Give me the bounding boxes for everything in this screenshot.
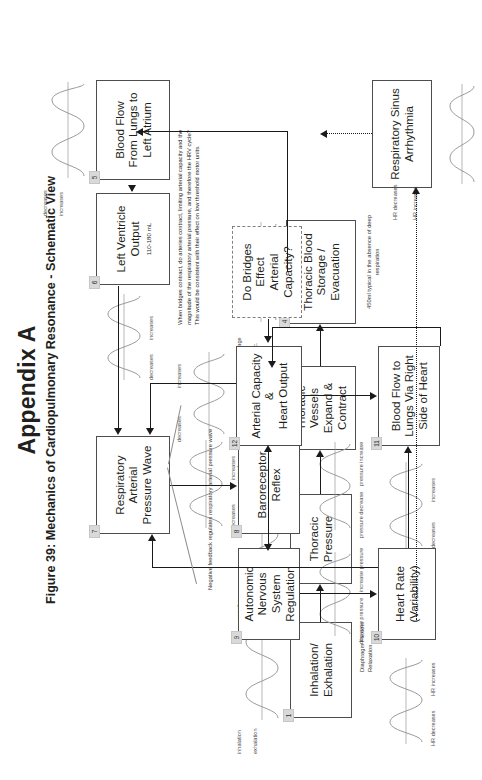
waveform-12-low-label: increases [176, 364, 182, 388]
edge-3-to-4 [320, 331, 321, 366]
edge-4-to-5-arrowhead [136, 128, 143, 136]
waveform-8-low-label: pressure increase [358, 442, 364, 486]
edge-1-to-rsa-dotted [416, 190, 417, 620]
annotation-diaphragm: Diaphragm Flexion/ Relaxation [358, 622, 375, 672]
node-6-left-ventricle-output[interactable]: Left Ventricle Output 110-180 mL [96, 193, 170, 285]
diagram-page: Appendix A Figure 39: Mechanics of Cardi… [0, 0, 482, 780]
node-10-heart-rate-variability[interactable]: Heart Rate (Variability) [378, 548, 436, 640]
waveform-11 [382, 462, 428, 548]
waveform-9 [312, 552, 356, 636]
edge-4-to-5-vertical [140, 131, 288, 132]
waveform-5-high-label: decreases [42, 190, 48, 216]
edge-2-to-3 [320, 457, 321, 494]
edge-9-to-10-arrowhead [370, 590, 377, 598]
node-4-sub-note: 450ml typical in the absence of deep res… [365, 214, 382, 310]
edge-6-to-7 [118, 286, 119, 428]
node-number-badge-9: 9 [231, 631, 242, 644]
edge-1-to-2-arrowhead [316, 584, 324, 591]
waveform-1-low-label: exhalation [252, 728, 258, 754]
node-7-respiratory-arterial-pressure-wave[interactable]: Respiratory Arterial Pressure Wave [96, 436, 170, 534]
edge-2-to-3-arrowhead [316, 450, 324, 457]
waveform-6 [100, 294, 146, 380]
edge-12-to-11 [302, 395, 370, 396]
node-label: Thoracic Blood Storage / Evacuation [301, 233, 342, 310]
edge-12-to-11-arrowhead [370, 392, 377, 400]
edge-11-to-3-arrowhead [268, 361, 276, 368]
node-number-badge-1: 1 [283, 709, 294, 722]
node-label: Left Ventricle Output [114, 205, 141, 272]
waveform-rsa [444, 84, 480, 184]
waveform-11-low-label: increases [430, 478, 436, 502]
edge-12-to-7-vertical [150, 383, 236, 384]
node-label: Autonomic Nervous System Regulation [242, 552, 296, 636]
question-box-label: Do Bridges Effect Arterial Capacity? [240, 243, 294, 300]
edge-1-to-rsa-arrowhead [412, 187, 420, 194]
page-title: Appendix A [14, 0, 41, 780]
edge-10-to-11-arrowhead [404, 446, 412, 453]
rsa-label: Respiratory Sinus Arrhythmia [388, 88, 415, 180]
waveform-5-low-label: increases [58, 192, 64, 216]
node-9-autonomic-nervous-system-regulation[interactable]: Autonomic Nervous System Regulation [238, 548, 300, 640]
edge-10-to-11 [408, 453, 409, 548]
node-respiratory-sinus-arrhythmia-box[interactable]: Respiratory Sinus Arrhythmia [372, 80, 432, 188]
node-number-badge-11: 11 [371, 437, 382, 450]
waveform-5 [44, 82, 90, 178]
node-number-badge-7: 7 [89, 525, 100, 538]
question-box-bridges-arterial-capacity[interactable]: Do Bridges Effect Arterial Capacity? [232, 226, 302, 318]
edge-9-to-12-arrowhead [264, 445, 272, 452]
waveform-8-high-label: pressure decrease [358, 492, 364, 538]
waveform-11-high-label: decreases [430, 522, 436, 548]
waveform-10-low-label: HR increases [430, 662, 436, 696]
waveform-rsa-high-label: HR decreases [392, 185, 398, 220]
waveform-9-low-label: increase pressure [358, 548, 364, 592]
edge-rsa-to-10-dotted [326, 133, 372, 134]
node-6-volume-value: 110-180 mL [145, 223, 152, 256]
node-label: Respiratory Arterial Pressure Wave [113, 446, 154, 525]
waveform-7-low-label: increases [230, 456, 236, 480]
waveform-6-high-label: decreases [148, 354, 154, 380]
edge-9-to-10 [300, 593, 370, 594]
waveform-1-high-label: inhalation [236, 730, 242, 754]
edge-11-to-3-horizontal-top [272, 327, 273, 362]
edge-12-to-7-arrowhead [146, 428, 154, 435]
edge-5-to-6-arrowhead [128, 185, 136, 192]
node-number-badge-8: 8 [231, 525, 242, 538]
node-label: Inhalation/ Exhalation [307, 643, 334, 697]
edge-9-to-12 [268, 452, 269, 548]
edge-10-to-7-vertical [152, 567, 378, 568]
node-label: Thoracic Vessels Expand & Contract [294, 383, 348, 433]
edge-11-to-3-vertical [272, 327, 440, 328]
edge-4-to-5-horizontal [287, 131, 288, 272]
annotation-bridges-note: When bridges contract, do arteries contr… [176, 125, 202, 325]
rotated-page-wrapper: Appendix A Figure 39: Mechanics of Cardi… [0, 0, 482, 780]
node-number-badge-5: 5 [89, 171, 100, 184]
edge-question-to-12-arrowhead [264, 336, 272, 343]
waveform-10-high-label: HR decreases [430, 711, 436, 746]
edge-1-to-2 [320, 591, 321, 622]
waveform-6-low-label: increases [148, 316, 154, 340]
edge-rsa-to-10-arrowhead [320, 130, 327, 138]
node-number-badge-6: 6 [89, 276, 100, 289]
edge-7-to-8 [170, 485, 230, 486]
waveform-10 [382, 658, 428, 744]
node-11-blood-flow-lungs-right-heart[interactable]: Blood Flow to Lungs Via Right Side of He… [378, 346, 440, 446]
edge-6-to-7-arrowhead [114, 428, 122, 435]
edge-feedback-into-7-arrowhead [148, 534, 156, 541]
edge-7-to-8-arrowhead [230, 482, 237, 490]
node-label: Blood Flow to Lungs Via Right Side of He… [389, 355, 430, 437]
node-number-badge-12: 12 [229, 437, 240, 450]
waveform-12 [186, 352, 230, 436]
edge-11-to-3-horizontal-bottom [440, 327, 441, 346]
edge-feedback-into-7 [152, 540, 153, 568]
edge-12-to-7-horizontal [150, 383, 151, 428]
